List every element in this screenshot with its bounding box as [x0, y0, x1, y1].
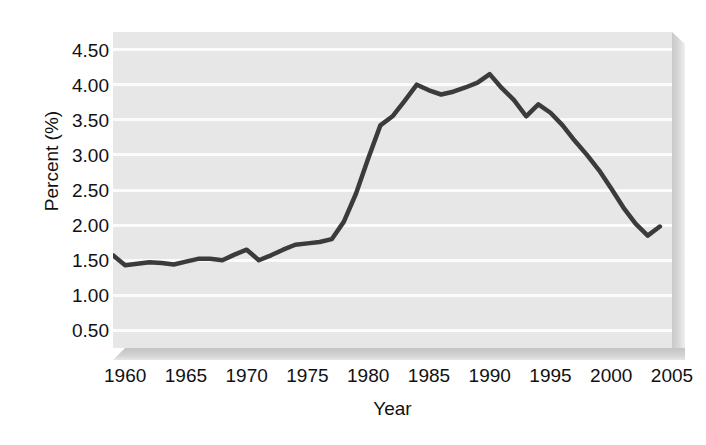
- plot-block: [113, 32, 685, 360]
- line-chart: Percent (%) 0.501.001.502.002.503.003.50…: [0, 0, 706, 445]
- x-axis-title: Year: [113, 398, 672, 420]
- y-tick-label: 4.00: [47, 75, 109, 94]
- y-tick-label: 2.50: [47, 181, 109, 200]
- y-tick-label: 4.50: [47, 40, 109, 59]
- x-tick-label: 2005: [632, 366, 706, 387]
- plot-area: [113, 32, 672, 348]
- y-tick-label: 1.00: [47, 286, 109, 305]
- data-line-svg: [113, 32, 672, 348]
- y-tick-label: 3.00: [47, 145, 109, 164]
- y-axis-tick-labels: 0.501.001.502.002.503.003.504.004.50: [47, 32, 109, 348]
- plot-bevel-bottom-face: [113, 348, 685, 360]
- x-axis-tick-labels: 1960196519701975198019851990199520002005: [0, 366, 706, 392]
- y-tick-label: 3.50: [47, 110, 109, 129]
- plot-bevel-right-face: [672, 32, 685, 348]
- y-tick-label: 2.00: [47, 216, 109, 235]
- y-tick-label: 1.50: [47, 251, 109, 270]
- y-tick-label: 0.50: [47, 321, 109, 340]
- data-series-line: [113, 74, 660, 265]
